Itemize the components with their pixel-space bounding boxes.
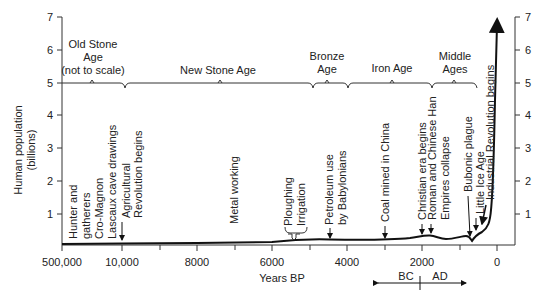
svg-text:2: 2 (47, 175, 53, 187)
annotation-hunter-gatherers: Hunter and gatherers (67, 185, 92, 239)
svg-text:8000: 8000 (185, 256, 209, 268)
svg-text:Age: Age (83, 51, 103, 63)
svg-text:Ages: Ages (442, 63, 468, 75)
y-ticks-left: 7 6 5 4 3 2 1 (47, 11, 53, 220)
svg-text:(not to scale): (not to scale) (61, 64, 125, 76)
svg-text:2: 2 (525, 175, 531, 187)
y-axis-label: Human population (billions) (12, 105, 37, 194)
svg-text:Agricultural: Agricultural (120, 163, 132, 218)
y-axis-right (515, 17, 520, 245)
svg-text:Hunter and: Hunter and (67, 185, 79, 239)
svg-text:Old Stone: Old Stone (69, 38, 118, 50)
svg-text:Industrial Revolution begins: Industrial Revolution begins (484, 64, 496, 200)
svg-text:5: 5 (47, 77, 53, 89)
era-bronze-age: Bronze Age (310, 50, 345, 75)
annotation-petroleum: Petroleum use by Babylonians (323, 150, 348, 238)
svg-text:Revolution begins: Revolution begins (132, 130, 144, 218)
svg-text:Bronze: Bronze (310, 50, 345, 62)
svg-text:4000: 4000 (335, 256, 359, 268)
svg-text:Human population: Human population (12, 105, 24, 194)
svg-text:7: 7 (47, 11, 53, 23)
svg-text:5: 5 (525, 77, 531, 89)
svg-text:4: 4 (525, 109, 531, 121)
era-old-stone-age: Old Stone Age (not to scale) (61, 38, 125, 76)
annotations: Hunter and gatherers Cro-Magnon Lascaux … (67, 64, 496, 240)
annotation-lascaux: Lascaux cave drawings (106, 124, 118, 239)
svg-text:0: 0 (494, 256, 500, 268)
svg-text:6: 6 (47, 44, 53, 56)
svg-text:by Babylonians: by Babylonians (336, 150, 348, 225)
svg-text:10,000: 10,000 (105, 256, 139, 268)
svg-text:7: 7 (525, 11, 531, 23)
svg-text:Roman and Chinese Han: Roman and Chinese Han (426, 96, 438, 220)
svg-text:Bubonic plague: Bubonic plague (462, 116, 474, 192)
svg-text:6: 6 (525, 44, 531, 56)
annotation-coal-china: Coal mined in China (379, 122, 391, 238)
annotation-agricultural-revolution: Agricultural Revolution begins (120, 130, 144, 240)
annotation-bubonic-plague: Bubonic plague (462, 116, 474, 236)
svg-text:BC: BC (398, 270, 413, 282)
y-ticks-right: 7 6 5 4 3 2 1 (525, 11, 531, 220)
svg-text:Middle: Middle (439, 50, 471, 62)
svg-text:2000: 2000 (410, 256, 434, 268)
svg-text:AD: AD (432, 270, 447, 282)
era-iron-age: Iron Age (372, 62, 413, 74)
svg-text:1: 1 (525, 208, 531, 220)
svg-text:4: 4 (47, 109, 53, 121)
svg-text:3: 3 (525, 142, 531, 154)
svg-text:Empires collapse: Empires collapse (439, 136, 451, 220)
era-labels: Old Stone Age (not to scale) New Stone A… (61, 38, 471, 76)
svg-text:(billions): (billions) (25, 130, 37, 171)
svg-text:Petroleum use: Petroleum use (323, 154, 335, 225)
svg-text:6000: 6000 (260, 256, 284, 268)
svg-text:Age: Age (317, 63, 337, 75)
annotation-industrial-revolution: Industrial Revolution begins (482, 64, 496, 224)
x-axis-label: Years BP (259, 272, 304, 284)
svg-text:1: 1 (47, 208, 53, 220)
svg-text:Ploughing: Ploughing (282, 177, 294, 226)
y-axis-left (57, 17, 62, 245)
population-chart: 7 6 5 4 3 2 1 7 6 5 4 3 2 1 Human popula… (0, 0, 550, 304)
x-axis (62, 245, 515, 251)
svg-text:Coal mined in China: Coal mined in China (379, 122, 391, 222)
annotation-ploughing-irrigation: Ploughing Irrigation (282, 177, 307, 240)
era-braces (62, 80, 477, 88)
bc-ad-marker: BC AD (378, 270, 466, 290)
annotation-roman-han-collapse: Roman and Chinese Han Empires collapse (426, 96, 451, 233)
svg-text:Irrigation: Irrigation (295, 183, 307, 226)
svg-text:500,000: 500,000 (42, 256, 82, 268)
annotation-metal-working: Metal working (228, 156, 240, 224)
era-middle-ages: Middle Ages (439, 50, 471, 75)
era-new-stone-age: New Stone Age (180, 64, 256, 76)
annotation-cro-magnon: Cro-Magnon (93, 178, 105, 239)
svg-text:gatherers: gatherers (80, 192, 92, 239)
x-ticks: 500,000 10,000 8000 6000 4000 2000 0 (42, 256, 500, 268)
svg-text:3: 3 (47, 142, 53, 154)
